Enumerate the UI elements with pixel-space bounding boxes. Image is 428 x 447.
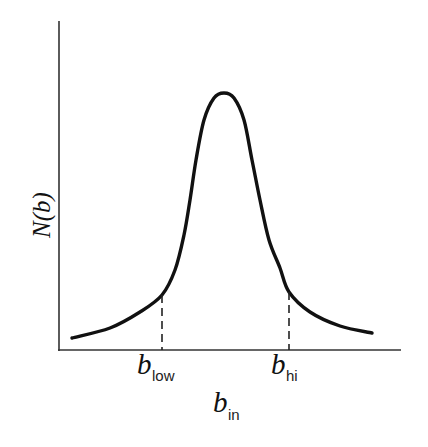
- b-hi-subscript: hi: [286, 367, 298, 384]
- x-axis-label-subscript: in: [228, 406, 240, 423]
- b-hi-label: b: [271, 348, 286, 380]
- y-axis-label: N(b): [28, 192, 56, 239]
- x-axis-label: b: [213, 386, 228, 418]
- chart-figure: N(b) b low b hi b in: [0, 0, 428, 447]
- b-low-subscript: low: [152, 367, 175, 384]
- chart-svg: N(b) b low b hi b in: [0, 0, 428, 447]
- b-low-label: b: [137, 348, 152, 380]
- distribution-curve: [72, 93, 372, 338]
